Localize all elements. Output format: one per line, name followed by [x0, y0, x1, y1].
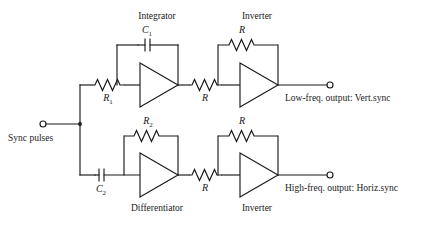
resistor-bottom-series-label: R: [201, 182, 208, 193]
input-terminal[interactable]: [40, 121, 46, 127]
bottom-output-label: High-freq. output: Horiz.sync: [285, 183, 398, 193]
resistor-bottom-feedback: [218, 131, 278, 142]
opamp-integrator[interactable]: [140, 63, 178, 107]
resistor-r1-label: R1: [102, 92, 113, 106]
input-junction-node: [78, 122, 82, 126]
resistor-top-series: [189, 80, 222, 91]
top-output-label: Low-freq. output: Vert.sync: [285, 93, 390, 103]
resistor-r1: [92, 80, 125, 91]
integrator-stage-label: Integrator: [138, 11, 176, 21]
capacitor-c1-label: C1: [142, 24, 153, 38]
resistor-r2-label: R2: [142, 115, 153, 129]
opamp-differentiator[interactable]: [140, 153, 178, 197]
opamp-top-inverter[interactable]: [240, 63, 278, 107]
differentiator-stage-label: Differentiator: [131, 203, 184, 213]
top-inverter-stage-label: Inverter: [242, 11, 273, 21]
resistor-r2: [124, 131, 178, 142]
circuit-diagram: R1 C1 Integrator R R Inverter Low-freq. …: [0, 0, 431, 225]
resistor-bottom-feedback-label: R: [238, 115, 245, 126]
resistor-top-feedback: [218, 40, 278, 51]
capacitor-c2-label: C2: [96, 183, 107, 197]
top-output-terminal[interactable]: [327, 82, 333, 88]
resistor-top-feedback-label: R: [238, 24, 245, 35]
resistor-bottom-series: [189, 170, 222, 181]
opamp-bottom-inverter[interactable]: [240, 153, 278, 197]
bottom-output-terminal[interactable]: [327, 172, 333, 178]
input-label: Sync pulses: [8, 133, 53, 143]
bottom-inverter-stage-label: Inverter: [242, 203, 273, 213]
resistor-top-series-label: R: [201, 92, 208, 103]
